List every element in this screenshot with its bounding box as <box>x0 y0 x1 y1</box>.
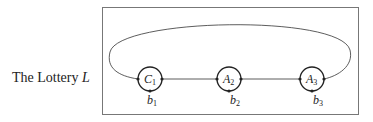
port-right <box>239 77 242 80</box>
lottery-diagram: C1 b1 A2 b2 A3 b3 <box>0 0 373 122</box>
port-left <box>136 77 139 80</box>
node-a2: A2 b2 <box>215 67 242 108</box>
node-label: C1 <box>144 72 156 87</box>
port-right <box>322 77 325 80</box>
bottom-label: b3 <box>313 93 323 108</box>
bottom-label: b2 <box>230 93 240 108</box>
node-a3: A3 b3 <box>298 67 325 108</box>
node-label: A2 <box>222 72 234 87</box>
bottom-label: b1 <box>147 93 157 108</box>
port-left <box>215 77 218 80</box>
node-label: A3 <box>305 72 317 87</box>
loop-arc <box>109 25 350 79</box>
node-c1: C1 b1 <box>136 67 163 108</box>
port-right <box>160 77 163 80</box>
port-left <box>298 77 301 80</box>
